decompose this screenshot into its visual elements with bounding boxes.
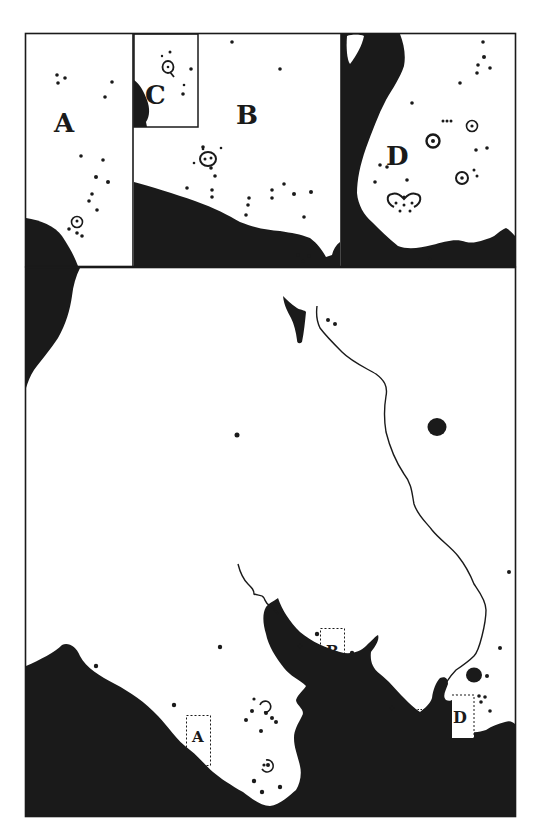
inset-label-c: C — [145, 80, 166, 110]
lake — [428, 418, 447, 436]
ringed-site — [427, 121, 478, 185]
land-mass-northwest — [26, 268, 80, 388]
island — [283, 296, 306, 343]
inset-panel-a: A — [26, 73, 114, 266]
ringed-site — [72, 217, 83, 228]
lake — [466, 668, 482, 683]
inset-panel-c: C — [134, 34, 198, 127]
land-mass — [134, 182, 340, 266]
main-map: A B c D — [26, 268, 516, 818]
inset-strip: A B — [26, 34, 516, 267]
site-dots — [55, 73, 114, 238]
ringed-site — [193, 147, 223, 166]
land-mass — [26, 218, 78, 266]
ringed-site — [252, 697, 273, 771]
inset-label-a: A — [53, 108, 75, 138]
inset-label-d: D — [386, 141, 409, 171]
inset-marker-label-c: c — [415, 710, 422, 724]
inset-marker-label-b: B — [326, 642, 339, 660]
inset-panel-d: D — [341, 34, 515, 266]
inset-marker-label-d: D — [453, 708, 467, 727]
inset-panel-b: B — [134, 40, 340, 266]
map-figure: A B — [0, 0, 536, 836]
inset-label-b: B — [236, 100, 258, 130]
inset-marker-d[interactable]: D — [452, 695, 474, 738]
cluster-site — [388, 194, 421, 213]
inset-marker-label-a: A — [191, 728, 204, 746]
ringed-site — [163, 61, 175, 77]
